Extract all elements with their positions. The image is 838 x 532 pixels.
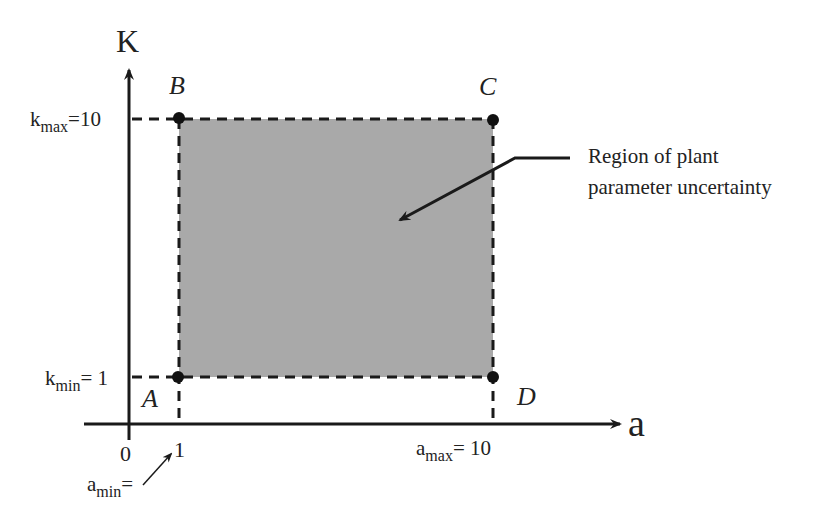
uncertainty-region-diagram: K a 0 B C A D kmax=10 kmin= 1 1 amin= am… — [0, 0, 838, 532]
annotation-text: Region of plant parameter uncertainty — [588, 144, 772, 199]
kmax-label: kmax=10 — [30, 107, 101, 135]
vertex-b-dot — [173, 112, 185, 124]
vertex-d-dot — [487, 371, 499, 383]
kmin-label: kmin= 1 — [45, 366, 108, 394]
vertex-a-label: A — [140, 384, 158, 413]
vertex-c-dot — [487, 114, 499, 126]
vertex-d-label: D — [516, 382, 536, 411]
y-axis-label: K — [116, 23, 139, 59]
amin-tick-value: 1 — [174, 437, 185, 462]
origin-label: 0 — [120, 441, 131, 466]
vertex-c-label: C — [479, 72, 497, 101]
amin-pointer-arrow — [143, 454, 171, 485]
amax-label: amax= 10 — [416, 436, 491, 464]
vertex-a-dot — [172, 371, 184, 383]
x-axis-label: a — [628, 402, 645, 444]
uncertainty-region — [179, 119, 493, 377]
vertex-b-label: B — [169, 71, 185, 100]
amin-label: amin= — [87, 472, 133, 500]
